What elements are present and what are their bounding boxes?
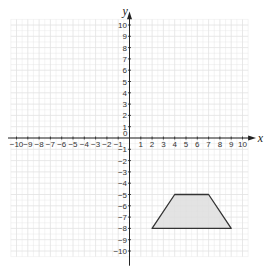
x-tick-label: −6 xyxy=(57,140,67,149)
x-tick-label: 9 xyxy=(229,140,234,149)
y-tick-label: 5 xyxy=(123,78,128,87)
y-axis-label: y xyxy=(122,4,129,18)
y-tick-label: 4 xyxy=(123,89,128,98)
x-tick-label: −10 xyxy=(10,140,24,149)
x-tick-label: 4 xyxy=(172,140,177,149)
x-tick-label: −8 xyxy=(35,140,45,149)
x-axis-arrow-icon xyxy=(248,136,256,141)
x-tick-label: 8 xyxy=(218,140,223,149)
coordinate-plane: xy −10−9−8−7−6−5−4−3−2−11234567891010987… xyxy=(0,0,271,275)
x-tick-label: −9 xyxy=(23,140,33,149)
y-tick-label: −9 xyxy=(118,236,128,245)
x-axis-label: x xyxy=(257,131,264,145)
origin-label: 0 xyxy=(123,129,128,138)
y-tick-label: −7 xyxy=(118,213,128,222)
y-tick-label: −5 xyxy=(118,191,128,200)
x-tick-label: 5 xyxy=(184,140,189,149)
y-tick-label: 2 xyxy=(123,111,128,120)
y-tick-label: −10 xyxy=(113,247,127,256)
y-tick-label: 6 xyxy=(123,66,128,75)
y-tick-label: 3 xyxy=(123,100,128,109)
x-tick-label: 1 xyxy=(139,140,144,149)
x-tick-label: 10 xyxy=(238,140,247,149)
x-tick-label: −3 xyxy=(91,140,101,149)
x-tick-label: 6 xyxy=(195,140,200,149)
x-tick-label: 2 xyxy=(150,140,155,149)
y-tick-label: −6 xyxy=(118,202,128,211)
y-tick-label: −4 xyxy=(118,179,128,188)
x-tick-label: −4 xyxy=(80,140,90,149)
y-tick-label: 9 xyxy=(123,32,128,41)
x-tick-label: 7 xyxy=(206,140,211,149)
y-tick-label: 10 xyxy=(118,21,127,30)
trapezoid xyxy=(152,195,231,229)
y-tick-label: 7 xyxy=(123,55,128,64)
x-tick-label: −7 xyxy=(46,140,56,149)
y-tick-label: 8 xyxy=(123,44,128,53)
x-tick-label: −5 xyxy=(68,140,78,149)
y-tick-label: −8 xyxy=(118,224,128,233)
y-tick-label: −1 xyxy=(118,145,128,154)
y-tick-label: −3 xyxy=(118,168,128,177)
x-tick-label: −2 xyxy=(102,140,112,149)
shapes-layer xyxy=(152,195,231,229)
y-tick-label: −2 xyxy=(118,157,128,166)
x-tick-label: 3 xyxy=(161,140,166,149)
